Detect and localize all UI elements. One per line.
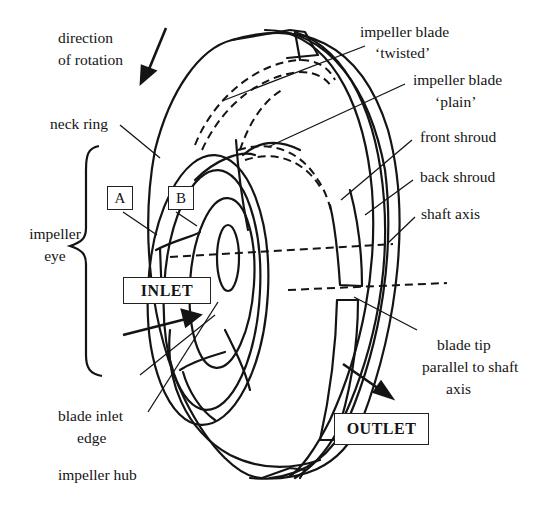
label-impeller-blade-twisted-line1: impeller blade	[360, 22, 449, 42]
label-impeller-hub: impeller hub	[58, 465, 137, 485]
box-a: A	[107, 186, 133, 210]
box-outlet: OUTLET	[334, 413, 429, 445]
label-impeller-eye-line1: impeller	[20, 224, 90, 244]
label-direction-of-rotation-line1: direction	[58, 28, 113, 48]
label-impeller-eye-line2: eye	[20, 246, 90, 266]
impeller-diagram: direction of rotation neck ring impeller…	[0, 0, 559, 511]
label-blade-tip-line1: blade tip	[437, 335, 491, 355]
label-shaft-axis: shaft axis	[421, 204, 480, 224]
outlet-passage-upper	[330, 190, 362, 286]
plain-blade-dashed-1	[238, 146, 332, 215]
twisted-blade-dashed-1	[195, 60, 335, 145]
label-blade-inlet-edge-line1: blade inlet	[58, 406, 123, 426]
box-b: B	[168, 186, 194, 210]
label-impeller-blade-plain-line2: ‘plain’	[435, 92, 476, 112]
label-blade-tip-line3: axis	[446, 379, 471, 399]
box-inlet: INLET	[123, 277, 211, 304]
plain-blade-dashed-2	[245, 156, 322, 190]
label-impeller-blade-twisted-line2: ‘twisted’	[375, 43, 430, 63]
label-impeller-blade-plain-line1: impeller blade	[413, 70, 502, 90]
label-direction-of-rotation-line2: of rotation	[58, 50, 123, 70]
label-neck-ring: neck ring	[50, 114, 108, 134]
top-blade-cap	[232, 30, 318, 58]
back-shroud-outer-edge	[232, 33, 400, 479]
hub-inner	[217, 225, 239, 291]
label-blade-tip-line2: parallel to shaft	[422, 357, 518, 377]
label-back-shroud: back shroud	[420, 167, 495, 187]
label-blade-inlet-edge-line2: edge	[77, 428, 106, 448]
twisted-blade-dashed-3	[240, 90, 282, 150]
label-front-shroud: front shroud	[420, 127, 496, 147]
